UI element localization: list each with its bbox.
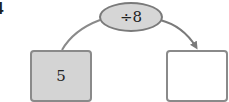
arrow-input-to-operation	[62, 20, 100, 50]
input-value: 5	[56, 67, 66, 85]
arrow-operation-to-output	[160, 20, 196, 47]
operation-label: ÷8	[120, 8, 142, 26]
input-box: 5	[30, 50, 92, 102]
operation-oval: ÷8	[99, 2, 163, 32]
output-answer-box[interactable]	[166, 50, 228, 102]
